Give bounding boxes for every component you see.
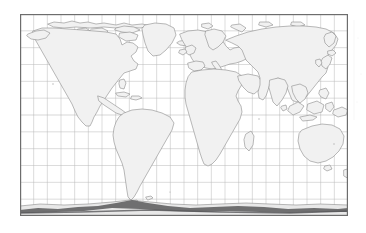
- world-map-svg: [20, 14, 348, 216]
- scan-artifacts-right-margin: [352, 16, 366, 126]
- world-map-figure: [20, 14, 348, 216]
- page-canvas: [0, 0, 366, 233]
